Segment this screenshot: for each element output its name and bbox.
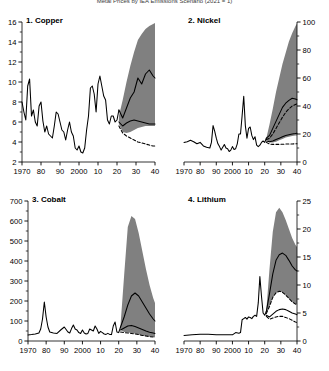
x-tick-label: 80 bbox=[196, 167, 204, 176]
y-tick-label: 40 bbox=[303, 102, 311, 111]
x-tick-label: 40 bbox=[293, 167, 301, 176]
panel-title-cobalt: 3. Cobalt bbox=[32, 195, 66, 204]
y-tick-label: 300 bbox=[10, 277, 23, 286]
series-flat-scenario bbox=[266, 142, 297, 144]
y-tick-label: 20 bbox=[303, 130, 311, 139]
y-tick-label: 500 bbox=[10, 237, 23, 246]
x-tick-label: 90 bbox=[60, 346, 68, 355]
figure-suptitle: Metal Prices by IEA Emissions Scenario (… bbox=[0, 0, 329, 7]
panel-cobalt: 0100200300400500600700197080902000102030… bbox=[6, 187, 177, 357]
y-tick-label: 5 bbox=[303, 309, 307, 318]
y-tick-label: 16 bbox=[8, 18, 16, 27]
x-tick-label: 20 bbox=[113, 167, 121, 176]
y-tick-label: 600 bbox=[10, 217, 23, 226]
uncertainty-band bbox=[119, 23, 155, 133]
uncertainty-band bbox=[121, 216, 155, 337]
x-tick-label: 80 bbox=[196, 346, 204, 355]
y-tick-label: 60 bbox=[303, 74, 311, 83]
panel-title-nickel: 2. Nickel bbox=[188, 16, 220, 25]
panel-copper: 246810121416197080902000102030401. Coppe… bbox=[0, 8, 177, 178]
y-tick-label: 0 bbox=[18, 337, 22, 346]
y-tick-label: 10 bbox=[8, 78, 16, 87]
series-flat-scenario bbox=[266, 316, 297, 322]
plot-area-copper: 24681012141619708090200010203040 bbox=[0, 8, 177, 178]
x-tick-label: 10 bbox=[244, 167, 252, 176]
x-tick-label: 2000 bbox=[71, 167, 88, 176]
y-tick-label: 100 bbox=[10, 317, 23, 326]
plot-area-nickel: 02040608010019708090200010203040 bbox=[162, 8, 319, 178]
x-tick-label: 30 bbox=[277, 346, 285, 355]
x-tick-label: 1970 bbox=[20, 346, 37, 355]
y-tick-label: 6 bbox=[12, 118, 16, 127]
uncertainty-band bbox=[266, 23, 297, 142]
y-tick-label: 4 bbox=[12, 138, 16, 147]
x-tick-label: 20 bbox=[260, 167, 268, 176]
x-tick-label: 40 bbox=[151, 346, 159, 355]
panel-nickel: 020406080100197080902000102030402. Nicke… bbox=[162, 8, 319, 178]
figure-root: Metal Prices by IEA Emissions Scenario (… bbox=[0, 0, 329, 371]
y-tick-label: 0 bbox=[303, 158, 307, 167]
x-tick-label: 80 bbox=[42, 346, 50, 355]
x-tick-label: 90 bbox=[212, 346, 220, 355]
panel-lithium: 0510152025197080902000102030404. Lithium bbox=[162, 187, 319, 357]
x-tick-label: 30 bbox=[132, 167, 140, 176]
x-tick-label: 10 bbox=[96, 346, 104, 355]
x-tick-label: 90 bbox=[56, 167, 64, 176]
x-tick-label: 2000 bbox=[224, 346, 241, 355]
x-tick-label: 1970 bbox=[14, 167, 31, 176]
series-history bbox=[28, 302, 121, 335]
y-tick-label: 8 bbox=[12, 98, 16, 107]
x-tick-label: 90 bbox=[212, 167, 220, 176]
y-tick-label: 700 bbox=[10, 197, 23, 206]
x-tick-label: 20 bbox=[114, 346, 122, 355]
y-tick-label: 400 bbox=[10, 257, 23, 266]
x-tick-label: 30 bbox=[133, 346, 141, 355]
y-tick-label: 80 bbox=[303, 46, 311, 55]
panel-title-lithium: 4. Lithium bbox=[188, 195, 226, 204]
x-tick-label: 2000 bbox=[74, 346, 91, 355]
plot-area-cobalt: 0100200300400500600700197080902000102030… bbox=[6, 187, 177, 357]
x-tick-label: 10 bbox=[94, 167, 102, 176]
x-tick-label: 20 bbox=[260, 346, 268, 355]
y-tick-label: 10 bbox=[303, 281, 311, 290]
x-tick-label: 80 bbox=[37, 167, 45, 176]
x-tick-label: 2000 bbox=[224, 167, 241, 176]
y-tick-label: 100 bbox=[303, 18, 316, 27]
plot-area-lithium: 051015202519708090200010203040 bbox=[162, 187, 319, 357]
series-history bbox=[184, 96, 266, 151]
x-tick-label: 10 bbox=[244, 346, 252, 355]
x-tick-label: 40 bbox=[293, 346, 301, 355]
x-tick-label: 1970 bbox=[176, 167, 193, 176]
y-tick-label: 25 bbox=[303, 197, 311, 206]
series-history bbox=[184, 277, 266, 336]
panel-title-copper: 1. Copper bbox=[26, 16, 63, 25]
uncertainty-band bbox=[266, 208, 297, 313]
y-tick-label: 0 bbox=[303, 337, 307, 346]
y-tick-label: 20 bbox=[303, 225, 311, 234]
series-history bbox=[22, 76, 119, 153]
x-tick-label: 40 bbox=[151, 167, 159, 176]
x-tick-label: 30 bbox=[277, 167, 285, 176]
y-tick-label: 200 bbox=[10, 297, 23, 306]
y-tick-label: 14 bbox=[8, 38, 16, 47]
y-tick-label: 15 bbox=[303, 253, 311, 262]
series-low-scenario bbox=[266, 309, 297, 317]
x-tick-label: 1970 bbox=[176, 346, 193, 355]
y-tick-label: 2 bbox=[12, 158, 16, 167]
y-tick-label: 12 bbox=[8, 58, 16, 67]
